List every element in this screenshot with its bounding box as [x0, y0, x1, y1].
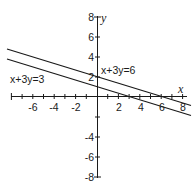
line-label-x-plus-3y-equals-6: x+3y=6: [101, 64, 136, 76]
y-axis-label: y: [100, 11, 107, 25]
x-tick-label: 6: [159, 101, 165, 113]
y-tick-label: 6: [88, 31, 94, 43]
x-tick-label: -4: [49, 101, 58, 113]
x-tick-labels: -6 -4 -2 2 4 6 8: [28, 101, 186, 113]
y-tick-label: 8: [88, 11, 94, 23]
y-tick-label: -4: [85, 131, 94, 143]
x-tick-label: 8: [180, 101, 186, 113]
y-tick-label: 2: [88, 71, 94, 83]
x-tick-label: -6: [28, 101, 37, 113]
x-tick-label: 2: [116, 101, 122, 113]
y-tick-label: -6: [85, 151, 94, 163]
x-axis-label: x: [177, 82, 184, 96]
coordinate-plane-chart: y x -6 -4 -2 2 4 6 8 8 6 4 2 -4 -6 -8 x+…: [0, 0, 194, 184]
y-tick-label: 4: [88, 51, 94, 63]
x-tick-label: 4: [138, 101, 144, 113]
y-tick-label: -8: [85, 171, 94, 183]
x-tick-label: -2: [71, 101, 80, 113]
line-label-x-plus-3y-equals-3: x+3y=3: [10, 73, 45, 85]
